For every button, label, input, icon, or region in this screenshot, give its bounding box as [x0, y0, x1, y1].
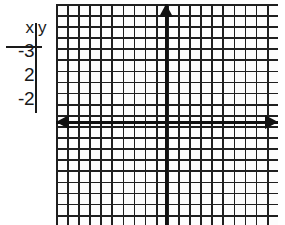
- left-arrow-icon: [56, 115, 69, 129]
- worksheet-page: x -3 2 -2 y: [0, 0, 285, 225]
- table-column-divider: [35, 23, 37, 113]
- table-column-x: x -3 2 -2: [0, 18, 34, 112]
- up-arrow-icon: [159, 4, 173, 17]
- table-header-x: x: [0, 18, 34, 40]
- table-row: [38, 64, 56, 88]
- xy-value-table: x -3 2 -2 y: [0, 18, 56, 118]
- table-row: -2: [0, 88, 34, 112]
- table-header-rule: [6, 46, 42, 48]
- table-header-y: y: [38, 18, 56, 40]
- table-row: [38, 88, 56, 112]
- y-axis: [165, 4, 168, 225]
- table-column-y: y: [38, 18, 56, 112]
- table-row: 2: [0, 64, 34, 88]
- table-row: [38, 40, 56, 64]
- cartesian-coordinate-grid: [56, 4, 278, 225]
- right-arrow-icon: [265, 115, 278, 129]
- table-row: -3: [0, 40, 34, 64]
